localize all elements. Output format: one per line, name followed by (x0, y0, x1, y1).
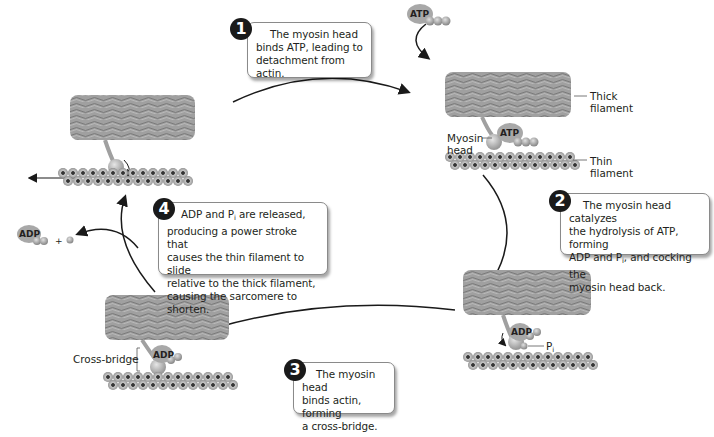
arrow-release (78, 229, 138, 248)
adp-bound-label-d: ADP (153, 349, 174, 361)
thick-filament-label: Thick filament (590, 90, 633, 114)
arrow-step1 (233, 78, 408, 102)
step-1-line2: binds ATP, leading to (256, 41, 364, 54)
step-4-line5: causing the sarcomere to shorten. (167, 290, 320, 316)
step-4-line2: producing a power stroke that (167, 225, 320, 251)
step-4-line3: causes the thin filament to slide (167, 251, 320, 277)
step-2-callout: 2 The myosin head catalyzes the hydrolys… (560, 193, 710, 255)
step-1-callout: 1 The myosin head binds ATP, leading to … (247, 22, 372, 78)
plus-sign: + (55, 235, 63, 247)
step-1-badge: 1 (230, 18, 252, 40)
step-3-line2: binds actin, forming (302, 394, 387, 420)
cross-bridge-cycle-diagram: ATP ATP ADP ADP ADP + Pi Thick filament … (0, 0, 714, 437)
pi-sub: i (552, 346, 554, 354)
adp-released-label: ADP (19, 228, 40, 240)
thick-line1: Thick (590, 90, 633, 102)
atp-free-label: ATP (410, 8, 429, 20)
step-4-callout: 4 ADP and Pi are released, producing a p… (158, 202, 328, 275)
step-2-line3a: ADP and P (569, 251, 622, 263)
pi-label: Pi (546, 340, 554, 356)
step-2-line1: The myosin head catalyzes (569, 199, 671, 224)
step-1-line1: The myosin head (270, 28, 358, 40)
step-4-line4: relative to the thick filament, (167, 277, 320, 290)
myosin-line1: Myosin (447, 132, 483, 144)
atp-bound-label: ATP (500, 127, 519, 139)
step-4-line1b: are released, (236, 208, 306, 220)
myosin-head-label: Myosin head (447, 132, 483, 156)
thin-line1: Thin (590, 155, 633, 167)
step-2-line4: myosin head back. (569, 281, 702, 294)
thin-line2: filament (590, 167, 633, 179)
arrow-step4 (121, 197, 155, 292)
state-detached-start (58, 95, 195, 186)
arrow-atp-in (416, 24, 428, 58)
step-3-badge: 3 (284, 359, 306, 381)
step-3-line3: a cross-bridge. (302, 420, 387, 433)
thick-line2: filament (590, 102, 633, 114)
adp-bound-label-c: ADP (511, 326, 532, 338)
myosin-line2: head (447, 144, 483, 156)
step-2-badge: 2 (549, 190, 571, 212)
thin-filament-label: Thin filament (590, 155, 633, 179)
step-4-line1a: ADP and P (181, 208, 234, 220)
step-4-badge: 4 (153, 198, 175, 220)
cross-bridge-label: Cross-bridge (73, 353, 139, 365)
step-3-callout: 3 The myosin head binds actin, forming a… (293, 362, 395, 414)
step-2-line2: the hydrolysis of ATP, forming (569, 225, 702, 251)
step-3-line1: The myosin head (302, 368, 375, 393)
step-1-line3: detachment from actin. (256, 54, 364, 80)
